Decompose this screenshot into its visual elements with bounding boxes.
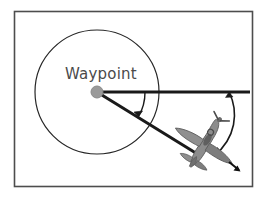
waypoint-diagram-figure: Waypoint bbox=[0, 0, 269, 199]
waypoint-diagram-canvas: Waypoint bbox=[0, 0, 269, 199]
figure-frame-border bbox=[15, 12, 253, 187]
waypoint-label: Waypoint bbox=[65, 65, 137, 83]
waypoint-marker-dot bbox=[91, 86, 103, 98]
